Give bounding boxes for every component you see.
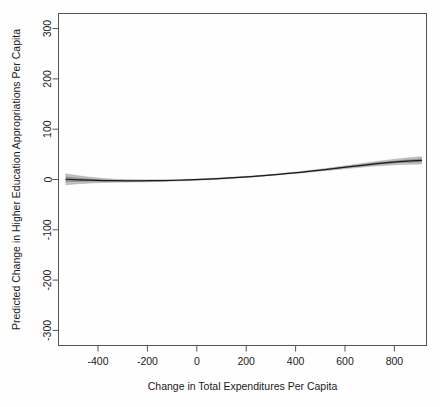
y-tick-label: -100 bbox=[42, 219, 54, 240]
y-tick-label: -200 bbox=[42, 269, 54, 290]
x-tick-label: 600 bbox=[336, 355, 354, 367]
x-tick-label: 400 bbox=[287, 355, 305, 367]
y-tick-label: -300 bbox=[42, 320, 54, 341]
y-axis-title: Predicted Change in Higher Education App… bbox=[10, 29, 22, 330]
y-tick-label: 100 bbox=[42, 120, 54, 138]
y-tick-label: 200 bbox=[42, 70, 54, 88]
x-tick-label: -200 bbox=[137, 355, 158, 367]
x-tick-label: -400 bbox=[88, 355, 109, 367]
y-tick-label: 0 bbox=[42, 176, 54, 182]
x-tick-label: 200 bbox=[237, 355, 255, 367]
x-tick-label: 0 bbox=[194, 355, 200, 367]
x-tick-label: 800 bbox=[386, 355, 404, 367]
y-tick-label: 300 bbox=[42, 20, 54, 38]
line-chart-svg: -400-2000200400600800-300-200-1000100200… bbox=[0, 0, 440, 407]
x-axis-title: Change in Total Expenditures Per Capita bbox=[148, 380, 338, 392]
chart-figure: -400-2000200400600800-300-200-1000100200… bbox=[0, 0, 440, 407]
